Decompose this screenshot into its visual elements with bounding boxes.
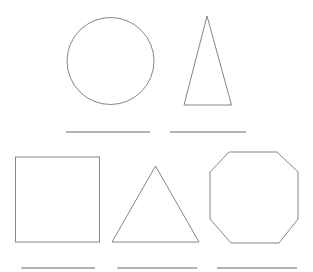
- triangle-shape: [112, 166, 199, 242]
- circle-shape: [67, 18, 154, 105]
- square-shape: [16, 157, 100, 242]
- octagon-shape: [210, 152, 298, 243]
- tall-triangle-shape: [184, 16, 232, 105]
- shapes-canvas: [0, 0, 313, 272]
- shapes-worksheet: [0, 0, 313, 272]
